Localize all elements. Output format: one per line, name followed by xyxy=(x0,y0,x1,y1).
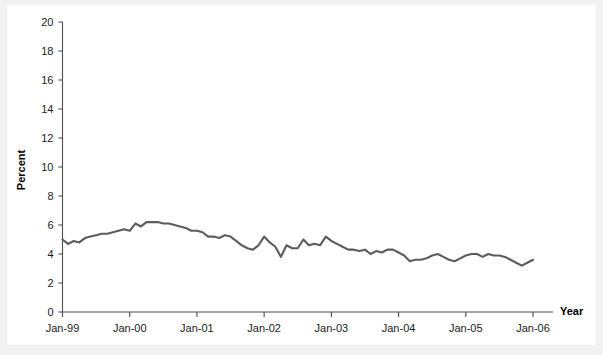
x-axis-title: Year xyxy=(560,305,584,317)
line-chart: 02468101214161820 Jan-99Jan-00Jan-01Jan-… xyxy=(0,0,603,355)
y-tick-label: 2 xyxy=(47,277,53,289)
x-tick-label: Jan-01 xyxy=(180,322,214,334)
y-tick-label: 16 xyxy=(41,74,53,86)
x-tick-label: Jan-02 xyxy=(247,322,281,334)
chart-figure: 02468101214161820 Jan-99Jan-00Jan-01Jan-… xyxy=(0,0,603,355)
x-tick-label: Jan-04 xyxy=(382,322,416,334)
y-axis-ticks: 02468101214161820 xyxy=(41,16,62,318)
x-tick-label: Jan-00 xyxy=(113,322,147,334)
y-tick-label: 4 xyxy=(47,248,53,260)
y-tick-label: 0 xyxy=(47,306,53,318)
y-tick-label: 6 xyxy=(47,219,53,231)
data-series-line xyxy=(63,222,534,266)
x-tick-label: Jan-03 xyxy=(315,322,349,334)
x-axis-ticks: Jan-99Jan-00Jan-01Jan-02Jan-03Jan-04Jan-… xyxy=(46,312,550,334)
y-tick-label: 10 xyxy=(41,161,53,173)
x-tick-label: Jan-05 xyxy=(449,322,483,334)
y-tick-label: 12 xyxy=(41,132,53,144)
y-tick-label: 18 xyxy=(41,45,53,57)
y-tick-label: 20 xyxy=(41,16,53,28)
y-tick-label: 8 xyxy=(47,190,53,202)
x-tick-label: Jan-99 xyxy=(46,322,80,334)
x-tick-label: Jan-06 xyxy=(516,322,550,334)
y-axis-title: Percent xyxy=(15,149,27,190)
y-tick-label: 14 xyxy=(41,103,53,115)
